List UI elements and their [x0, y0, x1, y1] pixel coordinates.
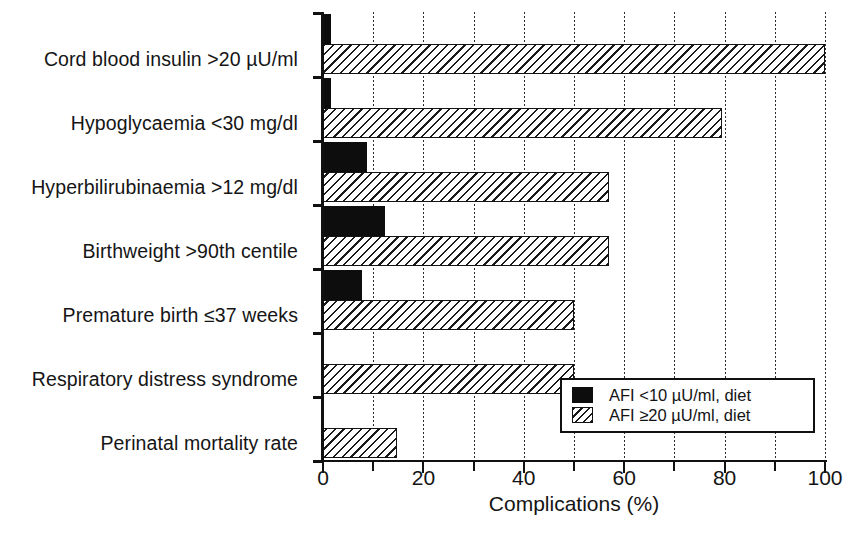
category-label: Respiratory distress syndrome	[0, 368, 298, 390]
y-axis-tick	[313, 12, 323, 15]
x-axis-tick-label: 60	[613, 466, 636, 490]
y-axis-tick	[313, 76, 323, 79]
category-label: Hypoglycaemia <30 mg/dl	[0, 112, 298, 134]
category-label: Premature birth ≤37 weeks	[0, 304, 298, 326]
category-label-column: Cord blood insulin >20 µU/ml Hypoglycaem…	[0, 12, 310, 460]
y-axis-tick	[313, 140, 323, 143]
legend-label: AFI ≥20 µU/ml, diet	[609, 406, 750, 425]
x-axis-title: Complications (%)	[323, 492, 825, 516]
category-label: Cord blood insulin >20 µU/ml	[0, 48, 298, 70]
x-axis-tick-label: 100	[807, 466, 842, 490]
legend-swatch-solid-icon	[572, 387, 593, 403]
gridline	[825, 12, 826, 460]
y-axis-tick	[313, 396, 323, 399]
y-axis-tick	[313, 204, 323, 207]
legend-swatch-hatched-icon	[572, 407, 593, 423]
x-axis-tick	[372, 462, 374, 471]
bar-chart-figure: Cord blood insulin >20 µU/ml Hypoglycaem…	[0, 0, 855, 535]
y-axis-tick	[313, 332, 323, 335]
legend-entry: AFI <10 µU/ml, diet	[572, 385, 805, 405]
y-axis-spine	[321, 12, 324, 460]
x-axis-tick	[473, 462, 475, 471]
category-label: Birthweight >90th centile	[0, 240, 298, 262]
legend: AFI <10 µU/ml, diet AFI ≥20 µU/ml, diet	[560, 378, 815, 433]
category-label: Hyperbilirubinaemia >12 mg/dl	[0, 176, 298, 198]
x-axis-tick-label: 80	[713, 466, 736, 490]
x-axis-tick-label: 20	[412, 466, 435, 490]
x-axis-tick	[673, 462, 675, 471]
x-axis-tick	[774, 462, 776, 471]
x-axis-tick-label: 0	[317, 466, 329, 490]
y-axis-tick	[313, 268, 323, 271]
x-axis-tick	[573, 462, 575, 471]
legend-entry: AFI ≥20 µU/ml, diet	[572, 405, 805, 425]
x-axis-tick-label: 40	[512, 466, 535, 490]
category-label: Perinatal mortality rate	[0, 432, 298, 454]
legend-label: AFI <10 µU/ml, diet	[609, 386, 751, 405]
